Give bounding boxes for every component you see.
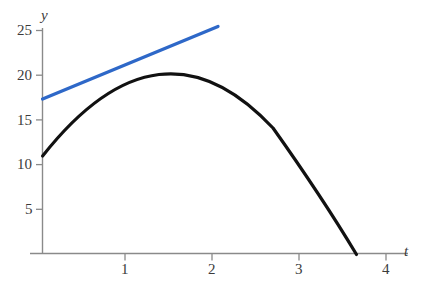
x-tick-label-3: 3 [295,262,303,277]
x-axis-label: t [404,244,408,259]
x-tick-label-2: 2 [208,262,216,277]
x-axis-ticks [125,254,386,261]
parabola-curve [43,74,357,255]
x-tick-label-1: 1 [121,262,129,277]
tangent-line [43,27,218,100]
y-tick-label-25: 25 [17,23,32,38]
y-tick-label-20: 20 [17,68,32,83]
y-tick-label-10: 10 [17,157,32,172]
y-axis-label: y [41,8,48,23]
y-tick-label-15: 15 [17,113,32,128]
y-axis-ticks [36,31,43,210]
x-tick-label-4: 4 [382,262,390,277]
figure-container: 25 20 15 10 5 1 2 3 4 y t [0,0,422,287]
y-tick-label-5: 5 [25,202,33,217]
chart-canvas [0,0,422,287]
